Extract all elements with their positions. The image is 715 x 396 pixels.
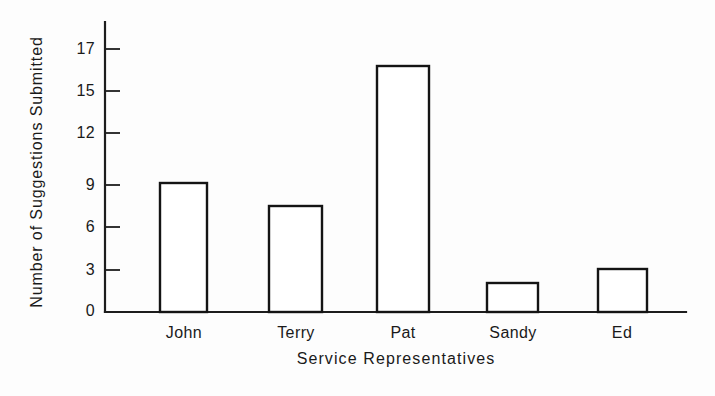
y-tick-label-9: 9 [86,176,95,193]
chart-canvas: 17 15 12 9 6 3 0 [0,0,715,396]
y-tick-label-12: 12 [77,124,95,141]
bar-pat[interactable] [377,66,429,312]
x-axis-tick-labels: John Terry Pat Sandy Ed [166,324,632,341]
bar-sandy[interactable] [487,283,538,312]
bar-ed[interactable] [598,269,647,312]
bar-terry[interactable] [269,206,322,312]
y-tick-label-6: 6 [86,218,95,235]
x-tick-label-pat: Pat [390,324,415,341]
x-tick-label-ed: Ed [612,324,632,341]
y-tick-label-15: 15 [77,82,95,99]
y-axis-tick-labels: 17 15 12 9 6 3 0 [77,40,95,319]
bar-john[interactable] [160,183,207,312]
y-axis-title: Number of Suggestions Submitted [28,36,45,308]
bar-chart-figure: 17 15 12 9 6 3 0 [0,0,715,396]
x-axis-title: Service Representatives [297,350,496,367]
y-tick-label-17: 17 [77,40,95,57]
x-tick-label-john: John [166,324,202,341]
bar-series [160,66,647,312]
x-tick-label-sandy: Sandy [489,324,536,341]
y-axis-ticks [105,49,120,270]
y-tick-label-3: 3 [86,261,95,278]
y-tick-label-0: 0 [86,302,95,319]
x-tick-label-terry: Terry [277,324,315,341]
